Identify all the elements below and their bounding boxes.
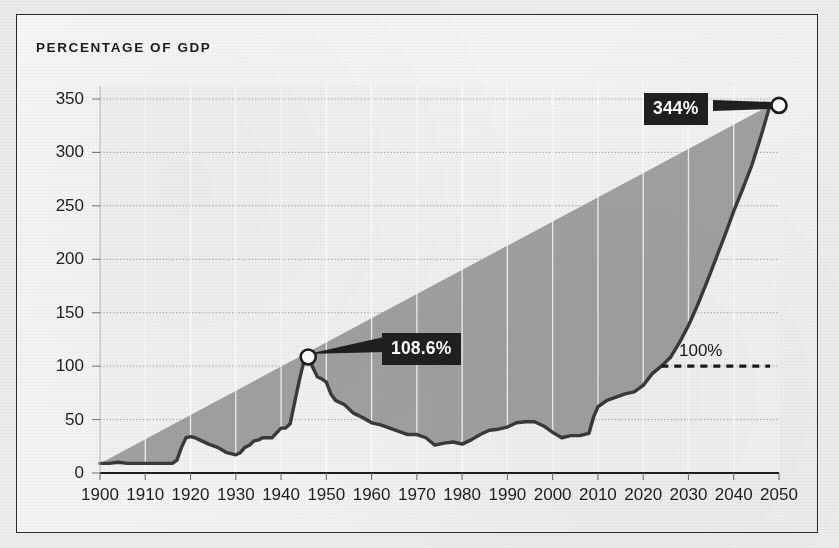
- x-axis-tick-label-2000: 2000: [530, 485, 576, 505]
- x-axis-tick-label-1920: 1920: [168, 485, 214, 505]
- x-axis-tick-label-2050: 2050: [756, 485, 802, 505]
- x-axis-tick-label-1910: 1910: [122, 485, 168, 505]
- x-axis-tick-label-2030: 2030: [665, 485, 711, 505]
- y-axis-tick-label-150: 150: [38, 303, 84, 323]
- x-axis-tick-label-1960: 1960: [349, 485, 395, 505]
- y-axis-tick-label-300: 300: [38, 142, 84, 162]
- x-axis-tick-label-1940: 1940: [258, 485, 304, 505]
- y-axis-tick-label-50: 50: [38, 410, 84, 430]
- chart-title: PERCENTAGE OF GDP: [36, 40, 211, 55]
- x-axis-tick-label-1950: 1950: [303, 485, 349, 505]
- y-axis-tick-label-200: 200: [38, 249, 84, 269]
- callout-box-wwii: 108.6%: [382, 333, 461, 365]
- y-axis-tick-label-250: 250: [38, 196, 84, 216]
- reference-line-label: 100%: [679, 341, 722, 361]
- x-axis-tick-label-2040: 2040: [711, 485, 757, 505]
- y-axis-tick-label-100: 100: [38, 356, 84, 376]
- x-axis-tick-label-1900: 1900: [77, 485, 123, 505]
- y-axis-tick-label-0: 0: [38, 463, 84, 483]
- y-axis-tick-label-350: 350: [38, 89, 84, 109]
- x-axis-tick-label-2010: 2010: [575, 485, 621, 505]
- x-axis-tick-label-1970: 1970: [394, 485, 440, 505]
- x-axis-tick-label-1980: 1980: [439, 485, 485, 505]
- x-axis-tick-label-2020: 2020: [620, 485, 666, 505]
- gdp-area-chart: [0, 0, 839, 548]
- data-point-marker-wwii: [301, 349, 316, 364]
- x-axis-tick-label-1930: 1930: [213, 485, 259, 505]
- data-point-marker-projection: [772, 98, 787, 113]
- callout-box-projection: 344%: [644, 93, 708, 125]
- x-axis-tick-label-1990: 1990: [484, 485, 530, 505]
